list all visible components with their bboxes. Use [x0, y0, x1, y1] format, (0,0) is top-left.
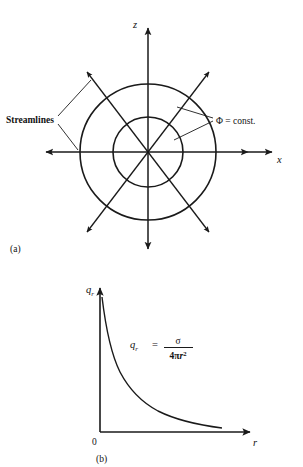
inverse-square-curve	[102, 297, 222, 428]
potential-label: Φ = const.	[216, 116, 255, 126]
figure-svg: z x Streamlines Φ = const. (a) qr r	[0, 0, 303, 467]
panel-a: z x Streamlines Φ = const. (a)	[6, 19, 282, 255]
streamlines-leader-lower	[58, 124, 78, 150]
potential-leader-inner	[174, 121, 213, 140]
equation-denominator: 4πr2	[170, 350, 188, 361]
streamlines-leader-upper	[58, 80, 91, 116]
origin-label: 0	[92, 437, 97, 447]
panel-b: qr r 0 qr = σ 4πr2 (b)	[86, 284, 258, 465]
potential-leader-outer	[177, 107, 213, 118]
figure-container: z x Streamlines Φ = const. (a) qr r	[0, 0, 303, 467]
streamlines-label: Streamlines	[6, 115, 54, 125]
r-axis-label: r	[253, 437, 258, 448]
equation-lhs: qr	[130, 339, 138, 353]
z-axis-label: z	[132, 19, 137, 30]
qr-axis-label-sub: r	[91, 290, 94, 298]
panel-b-caption: (b)	[96, 454, 107, 465]
x-axis-label: x	[276, 154, 282, 165]
flux-equation: qr = σ 4πr2	[130, 336, 193, 361]
qr-axis-label: qr	[86, 284, 94, 298]
equation-numerator: σ	[175, 336, 180, 346]
panel-a-caption: (a)	[10, 244, 21, 255]
equation-equals: =	[152, 339, 158, 350]
